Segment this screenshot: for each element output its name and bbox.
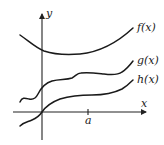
curve-h xyxy=(20,80,133,126)
function-graph: y x a f(x) g(x) h(x) xyxy=(0,0,164,145)
tick-label-a: a xyxy=(85,114,92,127)
x-axis-label: x xyxy=(141,97,148,110)
curve-f xyxy=(20,28,133,55)
label-g: g(x) xyxy=(137,54,159,67)
label-f: f(x) xyxy=(136,21,156,34)
y-axis-label: y xyxy=(45,7,53,20)
label-h: h(x) xyxy=(137,73,159,86)
